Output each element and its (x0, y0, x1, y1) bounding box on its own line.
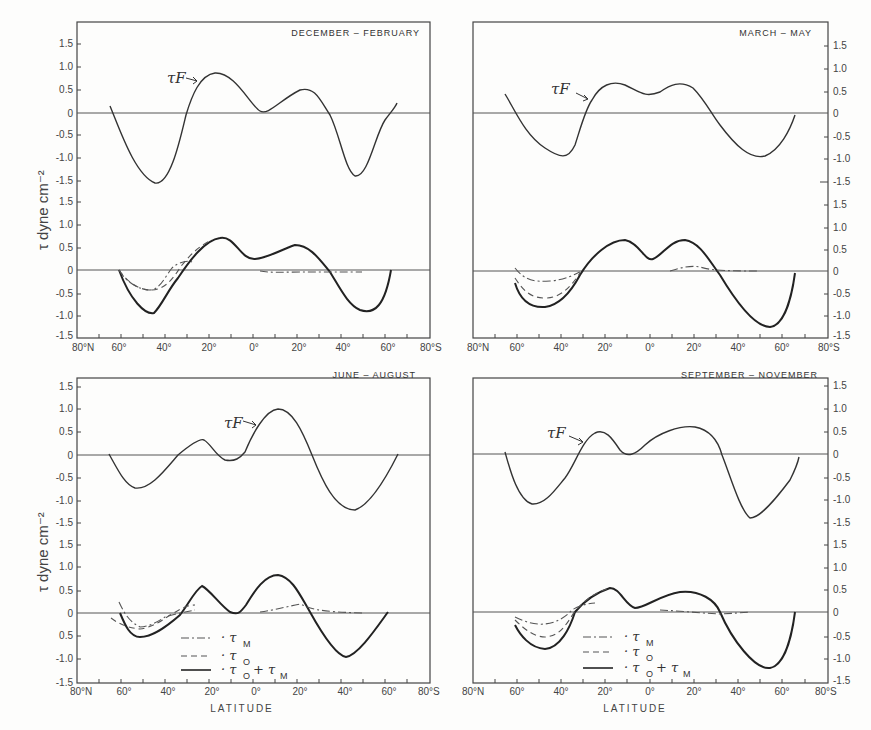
tau-o-plus-m-curve (515, 240, 795, 327)
svg-text:40°: 40° (335, 342, 350, 353)
svg-text:0: 0 (67, 108, 73, 119)
svg-text:1.5: 1.5 (59, 539, 73, 550)
svg-text:80°N: 80°N (467, 342, 489, 353)
legend: · τM · τO · τO + τM (181, 630, 288, 681)
svg-text:-1.0: -1.0 (833, 494, 851, 505)
svg-text:20°: 20° (686, 686, 701, 697)
svg-text:τ dyne cm⁻²: τ dyne cm⁻² (34, 512, 51, 592)
tau-m-curve (119, 261, 192, 290)
svg-text:· τ: · τ (221, 662, 237, 677)
svg-text:-0.5: -0.5 (833, 288, 851, 299)
svg-text:20°: 20° (597, 686, 612, 697)
tau-f-label: τF (547, 424, 566, 442)
x-axis-bottom-right: 80°N 60° 40° 20° 0° 20° 40° 60° 80°S LAT… (462, 679, 837, 714)
tau-f-label: τF (224, 414, 243, 432)
svg-text:-1.0: -1.0 (56, 310, 74, 321)
svg-text:M: M (280, 671, 288, 681)
svg-text:-1.5: -1.5 (56, 330, 74, 341)
svg-text:1.0: 1.0 (833, 403, 847, 414)
svg-text:60°: 60° (380, 342, 395, 353)
legend: · τM · τO · τO + τM (583, 629, 691, 679)
svg-text:60°: 60° (111, 342, 126, 353)
arrow-icon (576, 93, 588, 101)
figure-canvas: 1.5 1.0 0.5 0 -0.5 -1.0 -1.5 1.5 1.0 0.5… (0, 0, 871, 730)
svg-text:20°: 20° (597, 342, 612, 353)
svg-text:0: 0 (67, 450, 73, 461)
svg-text:1.5: 1.5 (59, 38, 73, 49)
svg-text:0.5: 0.5 (59, 630, 73, 641)
x-axis-title: LATITUDE (603, 703, 667, 714)
plot-mar-may: τF (505, 80, 795, 327)
svg-text:1.0: 1.0 (833, 222, 847, 233)
svg-text:-1.5: -1.5 (56, 175, 74, 186)
panel-title-mar-may: MARCH – MAY (739, 28, 812, 38)
svg-text:0.5: 0.5 (59, 242, 73, 253)
y-axis-title-top: τ dyne cm⁻² (34, 170, 51, 250)
svg-text:1.5: 1.5 (833, 40, 847, 51)
svg-text:-0.5: -0.5 (833, 631, 851, 642)
svg-text:1.0: 1.0 (833, 63, 847, 74)
panel-title-dec-feb: DECEMBER – FEBRUARY (291, 28, 420, 38)
svg-text:O: O (243, 671, 250, 681)
tau-o-curve (111, 605, 195, 629)
svg-text:-1.5: -1.5 (56, 517, 74, 528)
tau-m-curve (515, 268, 580, 281)
svg-text:· τ: · τ (221, 648, 237, 663)
svg-text:40°: 40° (160, 686, 175, 697)
svg-text:0.5: 0.5 (833, 426, 847, 437)
svg-text:M: M (683, 669, 691, 679)
svg-text:O: O (646, 653, 653, 663)
tau-o-curve (119, 240, 212, 290)
svg-text:-1.5: -1.5 (833, 517, 851, 528)
svg-text:60°: 60° (509, 342, 524, 353)
arrow-icon (569, 436, 583, 445)
svg-text:-1.0: -1.0 (833, 153, 851, 164)
svg-text:0: 0 (833, 266, 839, 277)
svg-text:0°: 0° (645, 686, 655, 697)
svg-text:0.5: 0.5 (59, 585, 73, 596)
svg-text:0.5: 0.5 (833, 584, 847, 595)
svg-text:0: 0 (833, 449, 839, 460)
svg-text:0: 0 (67, 608, 73, 619)
svg-text:0°: 0° (249, 342, 259, 353)
svg-text:0: 0 (833, 607, 839, 618)
svg-text:40°: 40° (730, 342, 745, 353)
plot-sep-nov: τF · τM · τO · τO + τM (505, 424, 799, 679)
svg-text:1.5: 1.5 (59, 381, 73, 392)
svg-text:20°: 20° (686, 342, 701, 353)
svg-text:1.0: 1.0 (59, 403, 73, 414)
svg-text:80°N: 80°N (72, 342, 94, 353)
svg-text:80°S: 80°S (815, 686, 837, 697)
svg-text:20°: 20° (204, 686, 219, 697)
svg-text:40°: 40° (553, 686, 568, 697)
svg-text:60°: 60° (774, 342, 789, 353)
arrow-icon (186, 77, 197, 84)
svg-text:+ τ: + τ (253, 662, 276, 677)
x-axis-bottom-left: 80°N 60° 40° 20° 0° 20° 40° 60° 80°S LAT… (70, 679, 440, 714)
x-axis-title: LATITUDE (210, 703, 274, 714)
svg-text:60°: 60° (509, 686, 524, 697)
svg-text:-0.5: -0.5 (56, 288, 74, 299)
svg-text:0.5: 0.5 (833, 86, 847, 97)
svg-text:-1.0: -1.0 (56, 653, 74, 664)
svg-text:0°: 0° (645, 342, 655, 353)
tau-m-curve (515, 603, 595, 624)
tau-m-curve (119, 602, 195, 627)
svg-text:· τ: · τ (624, 629, 640, 644)
svg-text:1.0: 1.0 (59, 561, 73, 572)
svg-text:M: M (646, 638, 654, 648)
svg-text:40°: 40° (337, 686, 352, 697)
svg-text:-1.0: -1.0 (56, 495, 74, 506)
panel-frame-dec-feb (77, 22, 430, 338)
tau-o-plus-m-curve (515, 588, 795, 668)
tau-f-label: τF (167, 69, 186, 87)
svg-text:-1.0: -1.0 (833, 653, 851, 664)
svg-text:τ dyne cm⁻²: τ dyne cm⁻² (34, 170, 51, 250)
svg-text:0.5: 0.5 (59, 426, 73, 437)
svg-text:O: O (243, 657, 250, 667)
svg-text:20°: 20° (201, 342, 216, 353)
plot-jun-aug: τF · τM · τO · τO + τM (109, 409, 398, 681)
svg-text:1.5: 1.5 (833, 539, 847, 550)
svg-text:60°: 60° (774, 686, 789, 697)
x-axis-top-right: 80°N 60° 40° 20° 0° 20° 40° 60° 80°S (467, 334, 840, 353)
